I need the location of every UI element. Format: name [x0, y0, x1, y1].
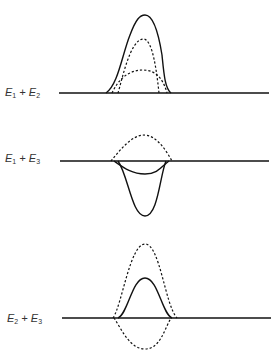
- component-pulse-up: [113, 244, 177, 318]
- waveform-e2-plus-e3: [0, 230, 280, 357]
- component-pulse-tall: [118, 39, 159, 93]
- panel-e2-plus-e3: E2 + E3: [0, 230, 280, 357]
- component-pulse-short: [112, 70, 167, 93]
- component-pulse-down: [114, 318, 171, 349]
- shallow-pulse-down: [114, 161, 169, 174]
- panel-e1-plus-e2: E1 + E2: [0, 0, 280, 120]
- waveform-e1-plus-e3: [0, 120, 280, 230]
- panel-e1-plus-e3: E1 + E3: [0, 120, 280, 230]
- waveform-e1-plus-e2: [0, 0, 280, 120]
- resultant-pulse: [118, 278, 172, 318]
- sum-pulse: [106, 15, 171, 93]
- component-pulse-up: [111, 135, 172, 161]
